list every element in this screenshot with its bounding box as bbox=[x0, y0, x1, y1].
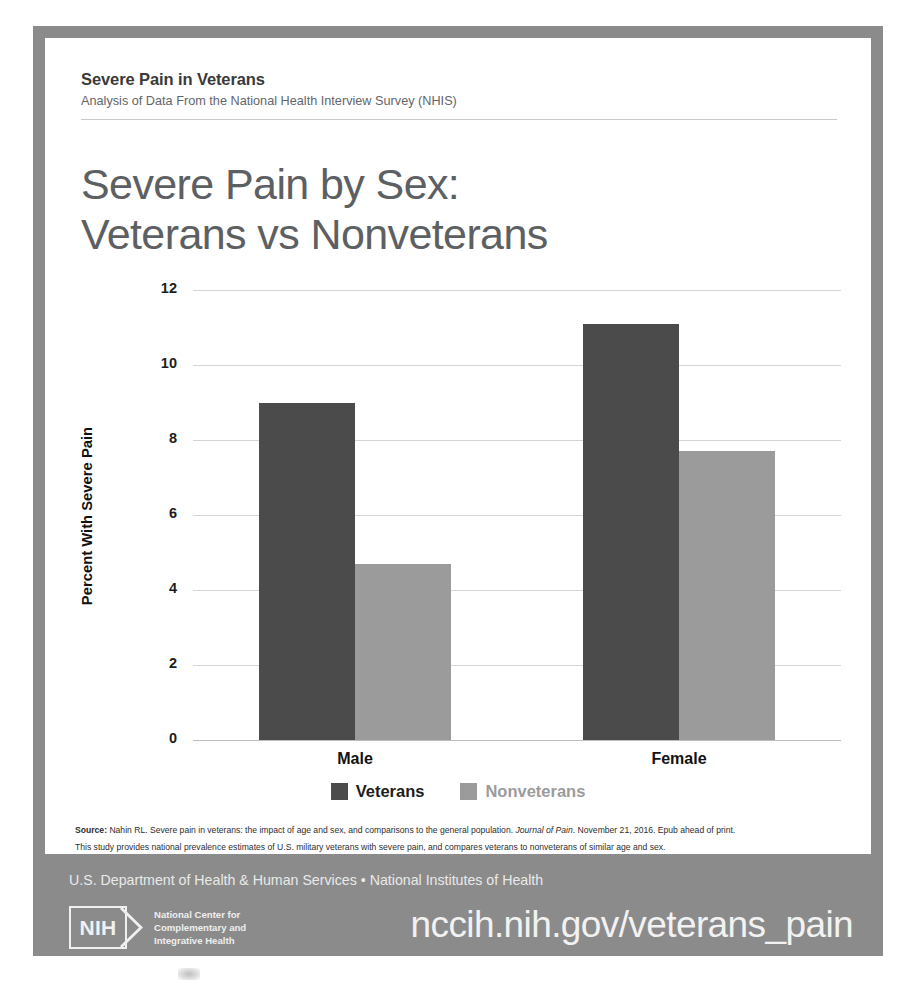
y-axis-label: Percent With Severe Pain bbox=[79, 356, 95, 676]
y-tick-label-12: 12 bbox=[137, 280, 177, 296]
x-category-label-female: Female bbox=[583, 750, 775, 768]
nccih-name-line-2: Complementary and bbox=[154, 921, 246, 934]
legend-swatch-icon-veterans bbox=[331, 783, 348, 800]
bar-female-veterans bbox=[583, 324, 679, 740]
source-citation-a: Nahin RL. Severe pain in veterans: the i… bbox=[107, 825, 515, 835]
bar-female-nonveterans bbox=[679, 451, 775, 740]
y-tick-label-6: 6 bbox=[137, 505, 177, 521]
gridline-0 bbox=[193, 740, 841, 741]
source-citation-b: . November 21, 2016. Epub ahead of print… bbox=[573, 825, 735, 835]
nccih-name: National Center for Complementary and In… bbox=[154, 908, 246, 948]
chart-panel: Severe Pain in Veterans Analysis of Data… bbox=[45, 38, 871, 854]
website-url[interactable]: nccih.nih.gov/veterans_pain bbox=[411, 904, 854, 946]
legend-item-veterans[interactable]: Veterans bbox=[331, 782, 425, 801]
x-category-label-male: Male bbox=[259, 750, 451, 768]
source-label: Source: bbox=[75, 825, 107, 835]
bar-chart: Percent With Severe Pain 024681012 MaleF… bbox=[45, 38, 871, 854]
nccih-name-line-3: Integrative Health bbox=[154, 934, 246, 947]
gridline-10 bbox=[193, 365, 841, 366]
y-tick-label-8: 8 bbox=[137, 430, 177, 446]
nih-mark-icon: NIH bbox=[69, 906, 145, 949]
y-tick-label-4: 4 bbox=[137, 580, 177, 596]
chevron-right-icon bbox=[119, 906, 145, 949]
bar-male-nonveterans bbox=[355, 564, 451, 740]
y-tick-label-10: 10 bbox=[137, 355, 177, 371]
legend-swatch-icon-nonveterans bbox=[460, 783, 477, 800]
y-tick-label-0: 0 bbox=[137, 730, 177, 746]
nih-logo: NIH National Center for Complementary an… bbox=[69, 906, 246, 949]
nccih-name-line-1: National Center for bbox=[154, 908, 246, 921]
legend-label-veterans: Veterans bbox=[356, 782, 425, 801]
y-tick-label-2: 2 bbox=[137, 655, 177, 671]
legend-item-nonveterans[interactable]: Nonveterans bbox=[460, 782, 585, 801]
chart-legend: VeteransNonveterans bbox=[45, 782, 871, 801]
source-journal: Journal of Pain bbox=[515, 825, 572, 835]
poster-card: Severe Pain in Veterans Analysis of Data… bbox=[33, 26, 883, 956]
legend-label-nonveterans: Nonveterans bbox=[485, 782, 585, 801]
hhs-agency-line: U.S. Department of Health & Human Servic… bbox=[69, 872, 543, 888]
source-line-1: Source: Nahin RL. Severe pain in veteran… bbox=[75, 822, 847, 839]
source-line-2: This study provides national prevalence … bbox=[75, 839, 847, 856]
scan-artifact bbox=[178, 968, 200, 980]
source-note: Source: Nahin RL. Severe pain in veteran… bbox=[75, 822, 847, 856]
bar-male-veterans bbox=[259, 403, 355, 741]
gridline-12 bbox=[193, 290, 841, 291]
